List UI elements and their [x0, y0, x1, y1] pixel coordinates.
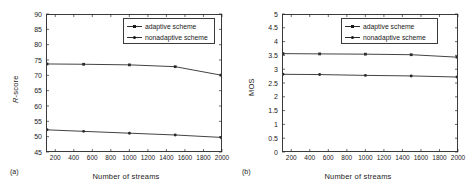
x-tick-label: 1000	[119, 155, 139, 162]
x-tick-label: 400	[300, 155, 320, 162]
y-tick-label: 4.5	[268, 24, 278, 31]
panel-tag-b: (b)	[242, 168, 251, 175]
x-tick-label: 1400	[156, 155, 176, 162]
legend-marker-nonadaptive-icon	[127, 33, 142, 42]
chart-panel-b: MOS 00.511.522.533.544.55 20040060080010…	[236, 0, 471, 193]
legend-item-nonadaptive-a: nonadaptive scheme	[127, 32, 210, 43]
x-tick-label: 1200	[374, 155, 394, 162]
y-tick-label: 4	[274, 38, 278, 45]
legend-item-adaptive-a: adaptive scheme	[127, 21, 210, 32]
x-axis-label-a: Number of streams	[8, 172, 244, 181]
y-tick-label: 90	[34, 11, 42, 18]
x-tick-label: 200	[45, 155, 65, 162]
legend-item-adaptive-b: adaptive scheme	[345, 21, 433, 32]
x-tick-label: 800	[337, 155, 357, 162]
x-tick-label: 400	[64, 155, 84, 162]
y-tick-label: 55	[34, 118, 42, 125]
legend-label-adaptive-a: adaptive scheme	[145, 23, 196, 30]
x-tick-label: 1600	[411, 155, 431, 162]
y-tick-label: 0.5	[268, 135, 278, 142]
y-tick-label: 65	[34, 87, 42, 94]
y-tick-label: 2	[274, 93, 278, 100]
y-tick-label: 50	[34, 133, 42, 140]
x-tick-label: 1200	[138, 155, 158, 162]
y-tick-label: 80	[34, 41, 42, 48]
legend-marker-nonadaptive-icon	[345, 33, 360, 42]
y-tick-label: 60	[34, 103, 42, 110]
y-tick-label: 1.5	[268, 107, 278, 114]
legend-marker-adaptive-icon	[345, 22, 360, 31]
y-tick-label: 3	[274, 66, 278, 73]
legend-label-nonadaptive-a: nonadaptive scheme	[145, 34, 208, 41]
legend-marker-adaptive-icon	[127, 22, 142, 31]
y-tick-label: 1	[274, 121, 278, 128]
y-tick-label: 85	[34, 26, 42, 33]
x-tick-label: 1600	[175, 155, 195, 162]
x-tick-label: 600	[82, 155, 102, 162]
legend-item-nonadaptive-b: nonadaptive scheme	[345, 32, 433, 43]
legend-b: adaptive scheme nonadaptive scheme	[341, 18, 438, 44]
x-axis-label-b: Number of streams	[240, 172, 471, 181]
x-tick-label: 1400	[392, 155, 412, 162]
x-tick-label: 800	[101, 155, 121, 162]
x-tick-label: 600	[318, 155, 338, 162]
x-tick-label: 2000	[448, 155, 468, 162]
panel-tag-a: (a)	[10, 168, 19, 175]
x-axis-ticklabels-a: 200400600800100012001400160018002000	[0, 155, 236, 167]
x-axis-ticklabels-b: 200400600800100012001400160018002000	[236, 155, 471, 167]
y-tick-label: 70	[34, 72, 42, 79]
y-tick-label: 5	[274, 11, 278, 18]
x-tick-label: 200	[281, 155, 301, 162]
x-tick-label: 1800	[430, 155, 450, 162]
y-tick-label: 3.5	[268, 52, 278, 59]
figure-container: R-score 45505560657075808590 20040060080…	[0, 0, 471, 193]
x-tick-label: 2000	[212, 155, 232, 162]
x-tick-label: 1800	[194, 155, 214, 162]
x-tick-label: 1000	[355, 155, 375, 162]
legend-label-nonadaptive-b: nonadaptive scheme	[363, 34, 426, 41]
y-tick-label: 75	[34, 57, 42, 64]
y-tick-label: 2.5	[268, 80, 278, 87]
chart-panel-a: R-score 45505560657075808590 20040060080…	[0, 0, 236, 193]
legend-label-adaptive-b: adaptive scheme	[363, 23, 414, 30]
legend-a: adaptive scheme nonadaptive scheme	[123, 18, 215, 44]
